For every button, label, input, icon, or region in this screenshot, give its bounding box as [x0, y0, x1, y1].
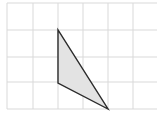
grid-diagram	[0, 0, 157, 113]
